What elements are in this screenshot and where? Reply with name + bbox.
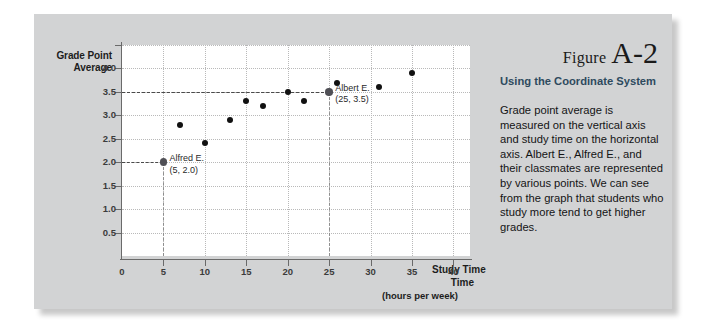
data-point bbox=[285, 89, 291, 95]
data-point bbox=[376, 84, 382, 90]
annotation-guide-horizontal bbox=[122, 162, 163, 163]
gridline-horizontal bbox=[122, 115, 470, 116]
x-axis-tick bbox=[371, 259, 372, 266]
caption-heading: Using the Coordinate System bbox=[500, 74, 660, 88]
annotation-guide-vertical bbox=[329, 92, 330, 256]
x-axis-tick bbox=[246, 259, 247, 266]
gridline-horizontal bbox=[122, 186, 470, 187]
x-axis-tick bbox=[163, 259, 164, 266]
data-point-labeled bbox=[160, 158, 168, 166]
point-annotation: Albert E.(25, 3.5) bbox=[335, 83, 370, 106]
point-annotation-coords: (5, 2.0) bbox=[169, 165, 204, 177]
x-axis-tick-label: 40 bbox=[438, 266, 468, 277]
x-axis-subtitle: (hours per week) bbox=[364, 290, 476, 301]
y-axis-tick-label: 4.0 bbox=[82, 63, 116, 73]
point-annotation-coords: (25, 3.5) bbox=[335, 94, 370, 106]
x-axis-tick-label: 15 bbox=[231, 266, 261, 277]
y-axis-tick bbox=[115, 209, 122, 210]
x-axis-tick-label: 0 bbox=[107, 266, 137, 277]
x-axis-title-line2: Time bbox=[432, 277, 474, 290]
gridline-horizontal bbox=[122, 45, 470, 46]
annotation-guide-horizontal-extended bbox=[122, 92, 329, 93]
x-axis-tick-label: 25 bbox=[314, 266, 344, 277]
x-axis-line bbox=[120, 259, 472, 260]
y-axis-line bbox=[121, 42, 122, 260]
caption-body: Grade point average is measured on the v… bbox=[500, 103, 666, 234]
point-annotation-name: Albert E. bbox=[335, 83, 370, 95]
y-axis-tick bbox=[115, 233, 122, 234]
y-axis-tick-label: 3.5 bbox=[82, 87, 116, 97]
figure-number: A-2 bbox=[611, 36, 658, 69]
gridline-vertical bbox=[205, 45, 206, 256]
y-axis-tick-label: 1.5 bbox=[82, 181, 116, 191]
data-point bbox=[177, 122, 183, 128]
y-axis-tick bbox=[115, 45, 122, 46]
y-axis-tick bbox=[115, 162, 122, 163]
x-axis-tick bbox=[412, 259, 413, 266]
x-axis-tick bbox=[453, 259, 454, 266]
x-axis-tick bbox=[329, 259, 330, 266]
gridline-vertical bbox=[371, 45, 372, 256]
x-axis-tick bbox=[288, 259, 289, 266]
y-axis-tick bbox=[115, 68, 122, 69]
data-point bbox=[260, 103, 266, 109]
x-axis-tick-label: 30 bbox=[356, 266, 386, 277]
scatter-chart: Grade Point Average Study Time Time (hou… bbox=[34, 14, 479, 309]
gridline-vertical bbox=[412, 45, 413, 256]
figure-label-word: Figure bbox=[563, 49, 607, 66]
gridline-horizontal bbox=[122, 68, 470, 69]
y-axis-tick bbox=[115, 139, 122, 140]
x-axis-tick-label: 20 bbox=[273, 266, 303, 277]
y-axis-tick-label: 2.5 bbox=[82, 134, 116, 144]
y-axis-tick bbox=[115, 186, 122, 187]
y-axis-tick bbox=[115, 115, 122, 116]
figure-panel: Grade Point Average Study Time Time (hou… bbox=[34, 14, 672, 309]
y-axis-tick-label: 2.0 bbox=[82, 157, 116, 167]
x-axis-tick-label: 10 bbox=[190, 266, 220, 277]
point-annotation: Alfred E.(5, 2.0) bbox=[169, 153, 204, 176]
point-annotation-name: Alfred E. bbox=[169, 153, 204, 165]
gridline-horizontal bbox=[122, 139, 470, 140]
caption-block: FigureA-2 Using the Coordinate System Gr… bbox=[486, 14, 672, 309]
figure-title: FigureA-2 bbox=[486, 36, 658, 70]
gridline-horizontal bbox=[122, 209, 470, 210]
gridline-horizontal bbox=[122, 233, 470, 234]
y-axis-tick-label: 1.0 bbox=[82, 204, 116, 214]
gridline-vertical bbox=[288, 45, 289, 256]
data-point bbox=[227, 117, 233, 123]
x-axis-tick-label: 5 bbox=[148, 266, 178, 277]
x-axis-tick bbox=[205, 259, 206, 266]
y-axis-tick-label: 3.0 bbox=[82, 110, 116, 120]
y-axis-tick-label: 0.5 bbox=[82, 228, 116, 238]
data-point-labeled bbox=[325, 88, 333, 96]
gridline-vertical bbox=[453, 45, 454, 256]
annotation-guide-vertical bbox=[163, 162, 164, 256]
y-axis-tick bbox=[115, 92, 122, 93]
gridline-vertical bbox=[246, 45, 247, 256]
x-axis-tick-label: 35 bbox=[397, 266, 427, 277]
plot-area bbox=[122, 45, 470, 256]
